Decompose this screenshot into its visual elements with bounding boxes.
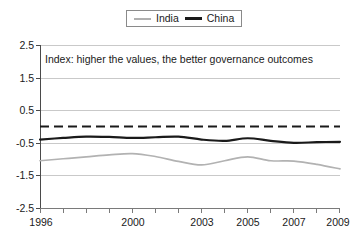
x-tick-mark <box>293 209 294 213</box>
x-tick-mark <box>224 209 225 213</box>
x-tick-label: 2000 <box>121 216 144 228</box>
series-layer <box>40 45 340 208</box>
legend-label-india: India <box>156 13 179 24</box>
legend-entry-india: India <box>134 13 179 24</box>
x-tick-mark <box>201 209 202 213</box>
y-tick-label: -2.5 <box>16 202 34 214</box>
y-axis-labels: 2.5 1.5 0.5 -0.5 -1.5 -2.5 <box>0 45 34 209</box>
x-tick-mark <box>247 209 248 213</box>
x-tick-mark <box>86 209 87 213</box>
x-tick-mark <box>132 209 133 213</box>
legend-swatch-china-icon <box>185 17 202 20</box>
x-tick-mark <box>178 209 179 213</box>
x-tick-label: 1996 <box>29 216 52 228</box>
x-tick-label: 2003 <box>190 216 213 228</box>
x-tick-mark <box>63 209 64 213</box>
x-tick-mark <box>339 209 340 213</box>
y-tick-label: 1.5 <box>19 72 34 84</box>
y-tick-label: -0.5 <box>16 137 34 149</box>
y-tick-label: 2.5 <box>19 39 34 51</box>
x-tick-mark <box>40 209 41 213</box>
x-axis-ticks <box>40 209 340 214</box>
x-axis-labels: 1996 2000 2003 2005 2007 2009 <box>0 216 353 232</box>
x-tick-mark <box>109 209 110 213</box>
x-tick-label: 2009 <box>326 216 349 228</box>
legend-swatch-india-icon <box>134 18 151 20</box>
series-line-china <box>40 137 340 143</box>
y-tick-label: 0.5 <box>19 104 34 116</box>
governance-index-chart: India China 2.5 1.5 0.5 -0.5 -1.5 -2.5 I… <box>0 0 353 252</box>
x-tick-mark <box>316 209 317 213</box>
chart-legend: India China <box>126 10 242 27</box>
series-line-india <box>40 154 340 169</box>
legend-entry-china: China <box>185 13 234 24</box>
x-tick-mark <box>270 209 271 213</box>
y-tick-label: -1.5 <box>16 169 34 181</box>
x-tick-label: 2005 <box>236 216 259 228</box>
x-tick-mark <box>155 209 156 213</box>
x-tick-label: 2007 <box>282 216 305 228</box>
legend-label-china: China <box>207 13 234 24</box>
